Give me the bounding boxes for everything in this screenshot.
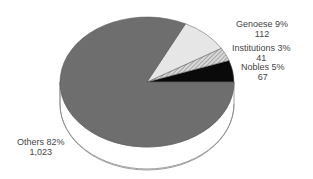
label-institutions-pct: Institutions 3% (232, 43, 291, 53)
label-others: Others 82% 1,023 (17, 137, 65, 157)
label-genoese-count: 112 (236, 29, 288, 39)
label-others-count: 1,023 (17, 147, 65, 157)
label-others-pct: Others 82% (17, 137, 65, 147)
label-genoese: Genoese 9% 112 (236, 19, 288, 39)
label-genoese-pct: Genoese 9% (236, 19, 288, 29)
label-nobles-count: 67 (241, 72, 285, 82)
label-nobles: Nobles 5% 67 (241, 62, 285, 82)
label-institutions: Institutions 3% 41 (232, 43, 291, 63)
label-nobles-pct: Nobles 5% (241, 62, 285, 72)
